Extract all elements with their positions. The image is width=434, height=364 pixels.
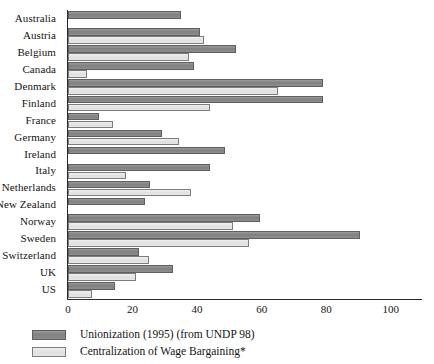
bar-centralization	[68, 189, 191, 197]
bar-unionization	[68, 79, 323, 87]
category-axis-labels: AustraliaAustriaBelgiumCanadaDenmarkFinl…	[0, 10, 62, 298]
category-label: Netherlands	[2, 181, 56, 193]
x-tick-label: 0	[65, 303, 71, 315]
bar-centralization	[68, 239, 249, 247]
bar-centralization	[68, 256, 149, 264]
x-axis-ticks: 020406080100	[68, 301, 428, 321]
bar-unionization	[68, 130, 162, 138]
bar-unionization	[68, 198, 145, 206]
category-label: Germany	[14, 131, 56, 143]
bar-unionization	[68, 147, 225, 155]
category-label: Switzerland	[2, 249, 56, 261]
chart-legend: Unionization (1995) (from UNDP 98)Centra…	[32, 326, 412, 360]
bar-unionization	[68, 181, 150, 189]
plot-area: AustraliaAustriaBelgiumCanadaDenmarkFinl…	[0, 10, 434, 310]
category-label: Australia	[15, 12, 56, 24]
bar-unionization	[68, 45, 236, 53]
bar-unionization	[68, 113, 99, 121]
bars-container	[68, 10, 428, 298]
category-label: Finland	[22, 97, 56, 109]
legend-swatch-dark	[32, 330, 66, 340]
bar-unionization	[68, 248, 139, 256]
category-label: US	[42, 283, 56, 295]
legend-item: Centralization of Wage Bargaining*	[32, 343, 412, 360]
x-tick-label: 20	[127, 303, 138, 315]
category-label: Ireland	[24, 148, 56, 160]
category-label: Belgium	[17, 46, 56, 58]
bar-centralization	[68, 290, 92, 298]
legend-label: Unionization (1995) (from UNDP 98)	[80, 328, 255, 341]
bar-centralization	[68, 273, 136, 281]
bar-unionization	[68, 11, 181, 19]
bar-unionization	[68, 214, 260, 222]
category-label: New Zealand	[0, 198, 56, 210]
category-label: UK	[40, 266, 56, 278]
bar-unionization	[68, 231, 360, 239]
bar-centralization	[68, 222, 233, 230]
legend-item: Unionization (1995) (from UNDP 98)	[32, 326, 412, 343]
bar-centralization	[68, 138, 179, 146]
legend-label: Centralization of Wage Bargaining*	[80, 345, 246, 358]
bar-centralization	[68, 121, 113, 129]
category-label: Italy	[35, 164, 56, 176]
category-label: Canada	[22, 63, 56, 75]
bar-chart: AustraliaAustriaBelgiumCanadaDenmarkFinl…	[0, 0, 434, 364]
category-label: Sweden	[21, 232, 56, 244]
category-label: Denmark	[14, 80, 56, 92]
bar-unionization	[68, 164, 210, 172]
bar-unionization	[68, 28, 200, 36]
bar-unionization	[68, 282, 115, 290]
x-tick-label: 40	[192, 303, 203, 315]
x-tick-label: 60	[256, 303, 267, 315]
bar-centralization	[68, 70, 87, 78]
bar-centralization	[68, 53, 189, 61]
bar-centralization	[68, 172, 126, 180]
bar-unionization	[68, 265, 173, 273]
x-tick-label: 100	[382, 303, 399, 315]
bar-centralization	[68, 104, 210, 112]
x-tick-label: 80	[321, 303, 332, 315]
bar-centralization	[68, 87, 278, 95]
category-label: Austria	[23, 29, 56, 41]
category-label: France	[25, 114, 56, 126]
bar-unionization	[68, 62, 194, 70]
category-label: Norway	[20, 215, 56, 227]
bar-centralization	[68, 36, 204, 44]
bar-unionization	[68, 96, 323, 104]
legend-swatch-light	[32, 347, 66, 357]
